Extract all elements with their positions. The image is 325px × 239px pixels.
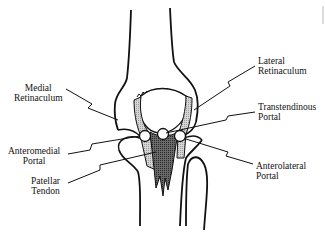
label-line: Anterolateral <box>256 161 306 171</box>
label-line: Tendon <box>31 186 60 196</box>
label-medial-retinaculum: Medial Retinaculum <box>14 83 63 103</box>
transtendinous-portal-circle <box>158 129 169 140</box>
leader-anterolateral-portal <box>186 139 253 164</box>
label-line: Lateral <box>258 56 307 66</box>
tibia-outline-medial <box>119 150 140 226</box>
leader-anteromedial-portal <box>68 136 140 154</box>
leader-patellar-tendon <box>68 152 156 183</box>
medial-joint-line <box>118 129 140 150</box>
label-line: Portal <box>256 171 306 181</box>
label-line: Anteromedial <box>8 146 60 156</box>
label-line: Retinaculum <box>14 93 63 103</box>
label-patellar-tendon: Patellar Tendon <box>31 176 60 196</box>
leader-medial-retinaculum <box>66 89 118 120</box>
leader-lateral-retinaculum <box>194 66 255 110</box>
label-line: Patellar <box>31 176 60 186</box>
label-anteromedial-portal: Anteromedial Portal <box>8 146 60 166</box>
label-line: Medial <box>14 83 63 93</box>
label-anterolateral-portal: Anterolateral Portal <box>256 161 306 181</box>
label-transtendinous-portal: Transtendinous Portal <box>258 102 316 122</box>
femur-outline <box>115 10 131 130</box>
anterolateral-portal-circle <box>175 131 186 142</box>
fibula-outline <box>186 157 207 230</box>
label-line: Portal <box>8 156 60 166</box>
label-line: Retinaculum <box>258 66 307 76</box>
label-lateral-retinaculum: Lateral Retinaculum <box>258 56 307 76</box>
label-line: Portal <box>258 112 316 122</box>
patellar-tendon <box>150 132 178 196</box>
label-line: Transtendinous <box>258 102 316 112</box>
anteromedial-portal-circle <box>140 131 151 142</box>
